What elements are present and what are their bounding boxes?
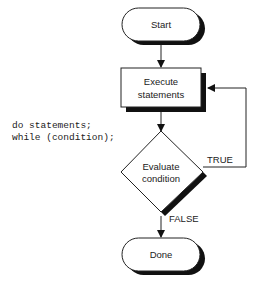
code-line-2: while (condition); (12, 132, 115, 143)
evaluate-decision-diamond: Evaluate condition (121, 131, 207, 216)
done-terminal: Done (122, 238, 205, 275)
flowchart-canvas: Start Execute statements do statements; … (0, 0, 261, 290)
true-label: TRUE (207, 154, 233, 165)
start-terminal: Start (122, 8, 205, 45)
done-label: Done (150, 249, 173, 260)
execute-process-box: Execute statements (121, 68, 206, 112)
evaluate-label-line1: Evaluate (143, 161, 180, 172)
start-label: Start (151, 19, 171, 30)
evaluate-label-line2: condition (142, 173, 180, 184)
execute-label-line2: statements (138, 89, 185, 100)
execute-label-line1: Execute (144, 76, 178, 87)
false-label: FALSE (169, 213, 199, 224)
code-line-1: do statements; (12, 120, 92, 131)
